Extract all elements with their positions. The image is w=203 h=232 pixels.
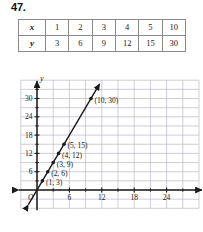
table-cell: 3: [46, 36, 69, 52]
y-axis-label: y: [39, 74, 44, 83]
y-tick-label: 30: [25, 94, 33, 103]
x-tick-label: 18: [130, 193, 138, 202]
table-cell: 3: [92, 20, 115, 36]
y-tick-label: 6: [29, 167, 33, 176]
y-tick-label: 18: [25, 131, 33, 140]
table-variable-y: y: [19, 36, 46, 52]
table-cell: 2: [69, 20, 92, 36]
y-tick-label: 12: [25, 149, 33, 158]
table-cell: 1: [46, 20, 69, 36]
table-cell: 10: [162, 20, 185, 36]
table-cell: 6: [69, 36, 92, 52]
table-cell: 12: [115, 36, 138, 52]
table-cell: 30: [162, 36, 185, 52]
table-variable-x: x: [19, 20, 46, 36]
coordinate-graph: 6121824612182430O (1, 3)(2, 6)(3, 9)(4, …: [0, 60, 203, 232]
data-point: [57, 152, 61, 156]
table-cell: 15: [139, 36, 162, 52]
value-table: x 1 2 3 4 5 10 y 3 6 9 12 15 30: [18, 19, 186, 52]
x-tick-label: 12: [98, 193, 106, 202]
data-point-label: (2, 6): [51, 169, 68, 178]
data-point-label: (4, 12): [62, 151, 82, 160]
x-tick-label: 24: [163, 193, 171, 202]
data-point: [51, 161, 55, 165]
data-point-label: (5, 15): [68, 141, 88, 150]
data-point-label: (10, 30): [95, 96, 119, 105]
problem-number: 47.: [11, 1, 26, 13]
data-point: [89, 97, 93, 101]
data-point: [41, 179, 45, 183]
table-row: y 3 6 9 12 15 30: [19, 36, 186, 52]
table-row: x 1 2 3 4 5 10: [19, 20, 186, 36]
y-tick-label: 24: [25, 112, 33, 121]
x-tick-label: 6: [68, 193, 72, 202]
table-cell: 9: [92, 36, 115, 52]
data-point: [62, 142, 66, 146]
data-point-labels: (1, 3)(2, 6)(3, 9)(4, 12)(5, 15)(10, 30): [46, 96, 119, 187]
data-point-label: (1, 3): [46, 178, 63, 187]
table-cell: 5: [139, 20, 162, 36]
data-point: [46, 170, 50, 174]
data-point-label: (3, 9): [57, 160, 74, 169]
table-cell: 4: [115, 20, 138, 36]
